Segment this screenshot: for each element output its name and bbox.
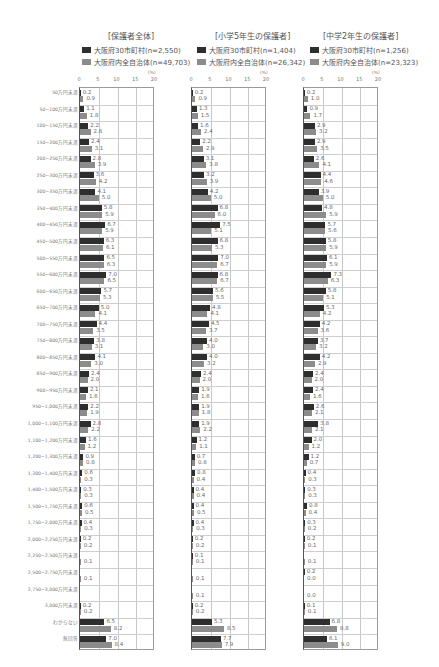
value-label: 8.5 <box>227 625 236 632</box>
value-label: 6.1 <box>329 635 338 642</box>
bar-gray <box>80 410 87 416</box>
value-label: 0.2 <box>196 608 205 615</box>
gridline-vertical <box>342 88 343 649</box>
value-label: 0.4 <box>309 509 318 516</box>
bar-dark <box>304 503 307 509</box>
category-label: 200~250万円未満 <box>37 151 78 168</box>
bar-dark <box>192 321 209 327</box>
bar-gray <box>80 609 81 615</box>
bar-gray <box>192 626 224 632</box>
x-tick-label: 10 <box>225 76 231 82</box>
value-label: 9.0 <box>341 641 350 648</box>
value-label: 2.9 <box>206 145 215 152</box>
bar-gray <box>192 162 206 168</box>
bar-dark <box>80 470 82 476</box>
bar-gray <box>80 427 88 433</box>
gridline-horizontal <box>80 419 153 420</box>
x-tick-label: 15 <box>132 76 138 82</box>
bar-gray <box>192 212 215 218</box>
bar-gray <box>192 493 194 499</box>
bar-gray <box>192 410 199 416</box>
bar-dark <box>192 189 208 195</box>
bar-dark <box>304 454 309 460</box>
legend-label-dark: 大阪府30市町村(n=2,550) <box>94 45 181 55</box>
bar-gray <box>304 212 326 218</box>
bar-dark <box>304 222 325 228</box>
gridline-horizontal <box>80 568 153 569</box>
bar-gray <box>304 344 316 350</box>
bar-dark <box>80 619 104 625</box>
category-label: 250~300万円未満 <box>37 168 78 185</box>
bar-gray <box>80 328 93 334</box>
x-tick-label: 20 <box>151 76 157 82</box>
value-label: 1.9 <box>90 409 99 416</box>
value-label: 6.5 <box>107 277 116 284</box>
bar-gray <box>80 444 85 450</box>
bar-dark <box>192 437 197 443</box>
bar-gray <box>192 543 193 549</box>
category-label: 400~450万円未満 <box>37 217 78 234</box>
value-label: 0.2 <box>308 525 317 532</box>
value-label: 2.1 <box>315 409 324 416</box>
bar-gray <box>192 146 203 152</box>
x-tick-label: 10 <box>113 76 119 82</box>
bar-dark <box>192 421 199 427</box>
bar-gray <box>304 96 308 102</box>
category-label: 650~700万円未満 <box>37 300 78 317</box>
x-tick-label: 0 <box>301 76 304 82</box>
bar-dark <box>80 321 97 327</box>
bar-dark <box>304 371 313 377</box>
bar-dark <box>80 288 101 294</box>
bar-gray <box>192 609 193 615</box>
bar-gray <box>80 377 88 383</box>
bar-gray <box>80 129 91 135</box>
bar-dark <box>304 90 305 96</box>
value-label: 3.9 <box>98 161 107 168</box>
category-label: 950~1,000万円未満 <box>32 399 78 416</box>
value-label: 0.7 <box>310 459 319 466</box>
value-label: 0.1 <box>196 592 205 599</box>
bar-gray <box>192 195 211 201</box>
bar-gray <box>304 328 318 334</box>
gridline-horizontal <box>304 551 377 552</box>
bar-gray <box>80 96 83 102</box>
category-label: 700~750万円未満 <box>37 317 78 334</box>
category-label: 550~600万円未満 <box>37 267 78 284</box>
value-label: 1.6 <box>89 393 98 400</box>
x-tick-label: 15 <box>244 76 250 82</box>
bar-dark <box>80 172 94 178</box>
bar-dark <box>192 139 200 145</box>
bar-dark <box>80 421 91 427</box>
x-tick-label: 20 <box>375 76 381 82</box>
value-label: 3.2 <box>319 343 328 350</box>
value-label: 2.0 <box>315 376 324 383</box>
panel-title-grade8: [中学2年生の保護者] <box>323 30 398 41</box>
value-label: 5.3 <box>214 618 223 625</box>
bar-gray <box>304 146 317 152</box>
bar-gray <box>192 510 194 516</box>
category-label: 1,400~1,500万円未満 <box>28 482 78 499</box>
value-label: 4.2 <box>323 310 332 317</box>
bar-dark <box>192 536 193 542</box>
category-label: 300~350万円未満 <box>37 184 78 201</box>
gridline-horizontal <box>80 585 153 586</box>
value-label: 6.7 <box>220 277 229 284</box>
category-labels: 50万円未満50~100万円未満100~150万円未満150~200万円未満20… <box>0 87 78 667</box>
value-label: 1.2 <box>312 443 321 450</box>
bar-gray <box>192 328 206 334</box>
bar-gray <box>304 361 315 367</box>
value-label: 0.2 <box>84 542 93 549</box>
value-label: 5.9 <box>329 244 338 251</box>
bar-gray <box>80 510 82 516</box>
value-label: 5.5 <box>216 294 225 301</box>
x-tick-label: 0 <box>77 76 80 82</box>
value-label: 3.5 <box>320 145 329 152</box>
bar-gray <box>80 311 95 317</box>
value-label: 6.7 <box>220 261 229 268</box>
bar-dark <box>192 354 207 360</box>
value-label: 0.2 <box>196 542 205 549</box>
bar-gray <box>192 344 203 350</box>
plot-area-2: 0.21.00.91.72.93.22.93.52.64.14.44.63.95… <box>303 87 378 650</box>
bar-dark <box>192 470 195 476</box>
bar-gray <box>192 593 193 599</box>
